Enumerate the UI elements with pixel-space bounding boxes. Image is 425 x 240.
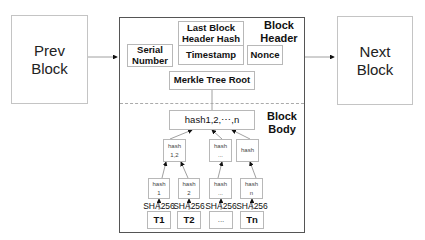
hash-node-label: hash (152, 180, 165, 188)
hash-node-label: hash (182, 180, 195, 188)
hash-node-label: hash (214, 180, 227, 188)
hash-node-1: hash 1 (148, 178, 170, 199)
transaction-t1: T1 (147, 211, 171, 229)
hash-node-label: hash (168, 142, 181, 150)
block-body-label: Block Body (262, 110, 302, 136)
merkle-tree-root-field: Merkle Tree Root (169, 71, 255, 90)
hash-node-label: hash (214, 142, 227, 150)
transaction-label: Tn (246, 215, 258, 226)
serial-number-line1: Serial (137, 45, 163, 56)
timestamp-field: Timestamp (178, 45, 244, 65)
block-header-label-line2: Header (255, 32, 303, 45)
transaction-t2: T2 (177, 211, 201, 229)
hash-node-index: n (250, 189, 253, 197)
prev-block-label-line2: Block (31, 60, 68, 77)
hash-node-index: 1,2 (170, 151, 178, 159)
hash-node-label: hash (241, 146, 254, 154)
transaction-tn: Tn (240, 211, 264, 229)
last-block-hash-line1: Last Block (187, 23, 235, 34)
merkle-root-hash-label: hash1,2,⋯,n (185, 115, 239, 126)
hash-node-level2-n: hash (236, 139, 259, 162)
hash-node-index: ... (218, 151, 223, 159)
header-body-divider (120, 103, 304, 104)
nonce-label: Nonce (250, 50, 279, 61)
transaction-label: T2 (183, 215, 194, 226)
next-block-label-line1: Next (360, 43, 391, 60)
serial-number-line2: Number (132, 56, 168, 67)
hash-node-label: hash (245, 180, 258, 188)
timestamp-label: Timestamp (186, 50, 236, 61)
hash-node-index: 2 (187, 189, 190, 197)
nonce-field: Nonce (247, 45, 283, 65)
last-block-hash-field: Last Block Header Hash (178, 21, 244, 46)
merkle-root-hash-node: hash1,2,⋯,n (169, 110, 255, 130)
transaction-ellipsis: ... (209, 211, 233, 229)
hash-node-index: ... (218, 189, 223, 197)
transaction-label: T1 (153, 215, 164, 226)
last-block-hash-line2: Header Hash (182, 34, 240, 45)
hash-node-index: 1 (157, 189, 160, 197)
block-body-label-line1: Block (262, 110, 302, 123)
next-block-label-line2: Block (357, 61, 394, 78)
transaction-label: ... (218, 215, 225, 224)
merkle-tree-root-label: Merkle Tree Root (174, 75, 251, 86)
serial-number-field: Serial Number (127, 44, 173, 67)
hash-node-1-2: hash 1,2 (163, 139, 186, 162)
hash-node-2: hash 2 (178, 178, 200, 199)
hash-node-level2-ellipsis: hash ... (209, 139, 232, 162)
hash-node-n: hash n (240, 178, 263, 199)
block-body-label-line2: Body (262, 123, 302, 136)
sha256-label: SHA256 (232, 201, 272, 211)
prev-block: Prev Block (11, 15, 88, 104)
block-header-label-line1: Block (255, 19, 303, 32)
block-header-label: Block Header (255, 19, 303, 45)
hash-node-ellipsis: hash ... (209, 178, 232, 199)
next-block: Next Block (337, 16, 413, 105)
prev-block-label-line1: Prev (34, 42, 65, 59)
